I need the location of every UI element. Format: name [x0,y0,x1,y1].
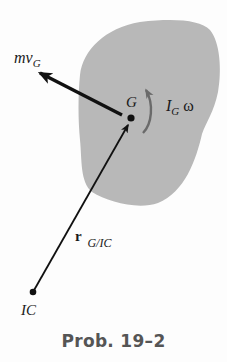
center-of-mass-point [127,114,134,121]
position-vector-label-base: r [75,228,82,244]
angular-momentum-label: IG ω [166,98,194,114]
position-vector-label-sub: G/IC [87,236,111,250]
position-vector-arrow [33,125,128,292]
rigid-body-shape [79,20,220,206]
figure-caption: Prob. 19–2 [0,331,227,351]
instant-center-label: IC [21,303,36,318]
position-vector-label: r G/IC [75,229,111,244]
omega-symbol: ω [183,97,194,114]
momentum-label: mvG [14,50,41,66]
center-of-mass-label: G [126,95,137,110]
instant-center-point [30,289,37,296]
angular-momentum-label-sub: G [171,105,179,117]
diagram-canvas: mvG G IG ω r G/IC IC Prob. 19–2 [0,0,227,362]
momentum-label-sub: G [33,57,41,69]
momentum-label-base: mv [14,49,33,66]
